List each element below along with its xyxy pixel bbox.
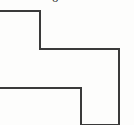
- figure-canvas: 6: [0, 0, 134, 125]
- shape-outline-svg: [0, 0, 134, 125]
- clipped-label-text: 6: [46, 0, 64, 5]
- step-polygon-outline: [0, 11, 119, 125]
